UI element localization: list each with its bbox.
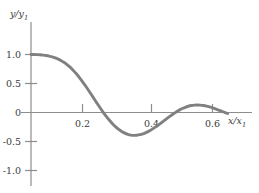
y-tick-label-1.0: 1.0 <box>6 49 21 60</box>
x-tick-label-0.2: 0.2 <box>75 118 90 129</box>
y-axis-title-main: y/y <box>9 8 25 19</box>
x-axis-title-main: x/x <box>228 115 243 126</box>
y-tick-label-0.5: 0.5 <box>6 78 21 89</box>
figure-container: 1.0 0.5 0 -0.5 -1.0 0.2 0.4 0.6 y/y1 x/x… <box>0 0 259 193</box>
y-axis-title: y/y1 <box>9 8 28 22</box>
x-axis-title: x/x1 <box>228 115 246 129</box>
y-tick-label-neg0.5: -0.5 <box>3 136 21 147</box>
y-tick-label-0: 0 <box>15 107 21 118</box>
data-curve-damped-oscillation <box>31 54 228 135</box>
x-tick-label-0.6: 0.6 <box>205 118 220 129</box>
x-axis-title-subscript: 1 <box>242 121 246 129</box>
y-axis-title-subscript: 1 <box>24 14 28 22</box>
damped-oscillation-chart: 1.0 0.5 0 -0.5 -1.0 0.2 0.4 0.6 y/y1 x/x… <box>0 0 259 193</box>
y-tick-label-neg1.0: -1.0 <box>3 165 21 176</box>
